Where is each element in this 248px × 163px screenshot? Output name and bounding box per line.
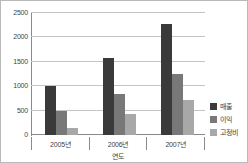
y-axis-tick-label: 2500	[13, 9, 28, 16]
x-axis-tick-cell: 2007년	[146, 137, 205, 150]
bar-chart-figure: 05001000150020002500 2005년2006년2007년 연도 …	[0, 0, 248, 163]
legend-entry: 이익	[210, 114, 237, 124]
y-axis-tick-label: 1500	[13, 57, 28, 64]
legend-label: 이익	[220, 114, 232, 124]
legend-label: 매출	[220, 101, 232, 111]
bar	[183, 100, 194, 135]
legend-entry: 매출	[210, 101, 237, 111]
bar	[172, 74, 183, 135]
x-axis-tick-label: 2007년	[165, 139, 186, 149]
y-axis-tick-label: 2000	[13, 33, 28, 40]
x-axis-title: 연도	[31, 151, 205, 161]
legend-swatch-icon	[210, 129, 217, 136]
x-axis-tick-label: 2006년	[108, 139, 129, 149]
bar	[125, 114, 136, 135]
bar	[67, 128, 78, 135]
y-axis-tick-label: 1000	[13, 82, 28, 89]
legend: 매출이익고정비	[210, 101, 237, 137]
plot-area: 05001000150020002500	[31, 13, 205, 135]
legend-swatch-icon	[210, 103, 217, 110]
y-axis-tick-label: 500	[17, 106, 28, 113]
bar-groups	[31, 13, 205, 135]
bar-group	[31, 13, 89, 135]
bar-group	[89, 13, 147, 135]
y-axis-tick-label: 0	[24, 131, 28, 138]
legend-swatch-icon	[210, 116, 217, 123]
x-axis-tick-labels: 2005년2006년2007년	[31, 137, 205, 150]
bar-group	[147, 13, 205, 135]
bar	[56, 111, 67, 135]
x-axis-tick-cell: 2006년	[89, 137, 147, 150]
bar	[45, 86, 56, 135]
bar	[161, 24, 172, 135]
x-axis-tick-cell: 2005년	[31, 137, 89, 150]
bar	[114, 94, 125, 135]
bar	[103, 58, 114, 135]
x-axis-tick-label: 2005년	[50, 139, 71, 149]
legend-entry: 고정비	[210, 127, 237, 137]
legend-label: 고정비	[220, 127, 237, 137]
